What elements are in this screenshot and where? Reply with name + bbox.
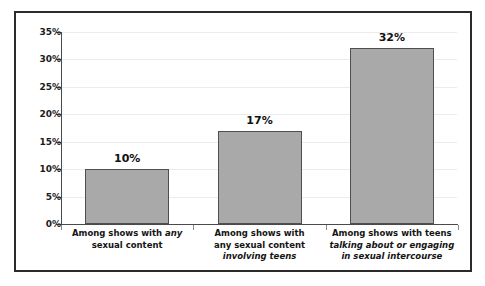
category-label-line: Among shows with <box>195 228 323 240</box>
bar-chart: 0%5%10%15%20%25%30%35% 10%17%32% Among s… <box>16 13 470 270</box>
category-label-text: Among shows with teens <box>332 228 452 238</box>
category-label-line: in sexual intercourse <box>328 251 456 263</box>
y-axis-label: 30% <box>17 55 61 64</box>
category-label-text: Among shows with <box>214 228 304 238</box>
x-axis-line <box>61 224 458 225</box>
category-label-line: any sexual content <box>195 240 323 252</box>
category-label: Among shows withany sexual contentinvolv… <box>195 228 323 263</box>
category-label-line: Among shows with teens <box>328 228 456 240</box>
y-axis-label: 35% <box>17 28 61 37</box>
y-axis-label: 5% <box>17 192 61 201</box>
x-axis-tick <box>458 225 459 230</box>
y-axis-label: 0% <box>17 220 61 229</box>
category-label: Among shows with teenstalking about or e… <box>328 228 456 263</box>
y-axis-label: 15% <box>17 137 61 146</box>
category-label-emphasis: any <box>165 228 182 238</box>
bar-value-label: 10% <box>114 152 140 165</box>
category-label-text: sexual content <box>92 240 163 250</box>
category-label-emphasis: in sexual intercourse <box>341 251 442 261</box>
y-axis-label: 10% <box>17 165 61 174</box>
category-label-line: Among shows with any <box>63 228 191 240</box>
category-label-line: sexual content <box>63 240 191 252</box>
bar-value-label: 17% <box>246 114 272 127</box>
bar <box>85 169 169 224</box>
category-label-line: involving teens <box>195 251 323 263</box>
x-axis-tick <box>326 225 327 230</box>
y-axis-label: 20% <box>17 110 61 119</box>
bar-value-label: 32% <box>379 31 405 44</box>
y-axis-label: 25% <box>17 82 61 91</box>
y-axis-line <box>61 32 62 225</box>
bar <box>350 48 434 224</box>
category-label-emphasis: involving teens <box>223 251 297 261</box>
chart-frame: 0%5%10%15%20%25%30%35% 10%17%32% Among s… <box>14 11 472 272</box>
category-label-emphasis: talking about or engaging <box>329 240 454 250</box>
category-label: Among shows with anysexual content <box>63 228 191 251</box>
category-label-text: Among shows with <box>72 228 165 238</box>
category-label-line: talking about or engaging <box>328 240 456 252</box>
x-axis-tick <box>61 225 62 230</box>
bar <box>218 131 302 224</box>
x-axis-tick <box>193 225 194 230</box>
category-label-text: any sexual content <box>214 240 305 250</box>
